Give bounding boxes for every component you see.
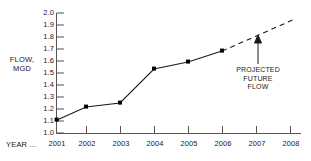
y-tick-label-1-3: 1.3: [30, 93, 54, 101]
y-axis-title: FLOW, MGD: [6, 56, 38, 73]
y-tick-label-1-1: 1.1: [30, 117, 54, 125]
y-tick-label-2-0: 2.0: [30, 9, 54, 17]
x-tick-label-2005: 2005: [174, 140, 204, 148]
y-tick-label-1-9: 1.9: [30, 21, 54, 29]
x-tick-label-2007: 2007: [242, 140, 272, 148]
x-tick-label-2001: 2001: [42, 140, 72, 148]
y-tick-label-1-2: 1.2: [30, 105, 54, 113]
annotation-line-3: FLOW: [226, 83, 290, 92]
flow-projection-chart: 2.0 1.9 1.8 1.7 1.6 1.5 1.4 1.3 1.2 1.1 …: [0, 0, 311, 161]
annotation-line-1: PROJECTED: [226, 66, 290, 75]
x-tick-label-2006: 2006: [208, 140, 238, 148]
y-axis-ticks: [57, 13, 65, 133]
y-tick-label-1-0: 1.0: [30, 129, 54, 137]
y-tick-label-1-4: 1.4: [30, 81, 54, 89]
y-axis-title-line2: MGD: [13, 64, 31, 73]
y-tick-label-1-7: 1.7: [30, 45, 54, 53]
x-axis-ticks: [87, 126, 291, 134]
historical-flow-line: [57, 51, 222, 120]
x-tick-label-2003: 2003: [106, 140, 136, 148]
x-axis-title: YEAR ...: [6, 141, 36, 150]
data-point-markers: [55, 49, 224, 122]
x-tick-label-2004: 2004: [140, 140, 170, 148]
projection-arrow: [255, 35, 262, 64]
y-tick-label-1-8: 1.8: [30, 33, 54, 41]
annotation-line-2: FUTURE: [226, 75, 290, 84]
x-tick-label-2008: 2008: [276, 140, 306, 148]
projected-future-flow-annotation: PROJECTED FUTURE FLOW: [226, 66, 290, 92]
x-tick-label-2002: 2002: [72, 140, 102, 148]
